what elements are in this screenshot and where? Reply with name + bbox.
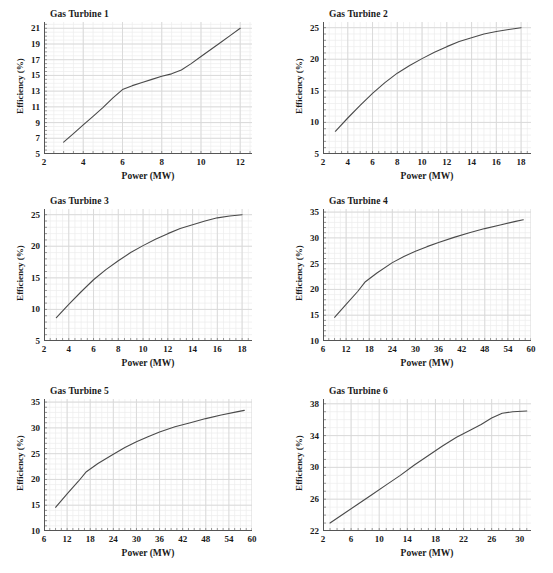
y-tick-label: 25	[20, 210, 40, 220]
y-tick-label: 17	[20, 55, 40, 65]
x-tick-label: 36	[434, 344, 443, 354]
x-tick-label: 16	[492, 157, 501, 167]
x-tick-label: 2	[42, 157, 47, 167]
chart-panel-2: Gas Turbine 2Efficiency (%)Power (MW)246…	[277, 0, 553, 191]
y-tick-label: 25	[20, 449, 40, 459]
y-tick-label: 10	[20, 304, 40, 314]
y-tick-label: 15	[299, 86, 319, 96]
x-tick-label: 4	[81, 157, 86, 167]
x-tick-label: 14	[467, 157, 476, 167]
x-axis-label-5: Power (MW)	[44, 548, 252, 558]
x-tick-label: 30	[515, 534, 524, 544]
chart-title-4: Gas Turbine 4	[329, 196, 388, 206]
x-tick-label: 18	[517, 157, 526, 167]
plot-area-6	[323, 399, 531, 531]
x-tick-label: 24	[388, 344, 397, 354]
plot-area-1	[44, 22, 252, 154]
x-tick-label: 12	[442, 157, 451, 167]
x-tick-label: 12	[63, 534, 72, 544]
x-tick-label: 48	[480, 344, 489, 354]
y-tick-label: 22	[299, 526, 319, 536]
x-tick-label: 8	[395, 157, 400, 167]
y-tick-label: 30	[299, 233, 319, 243]
x-tick-label: 42	[178, 534, 187, 544]
y-tick-label: 15	[20, 70, 40, 80]
x-tick-label: 6	[349, 534, 354, 544]
y-tick-label: 21	[20, 23, 40, 33]
chart-panel-4: Gas Turbine 4Efficiency (%)Power (MW)612…	[277, 191, 553, 379]
chart-title-5: Gas Turbine 5	[50, 386, 109, 396]
x-tick-label: 10	[139, 344, 148, 354]
x-tick-label: 10	[196, 157, 205, 167]
plot-area-3	[44, 209, 252, 341]
y-tick-label: 38	[299, 399, 319, 409]
y-tick-label: 26	[299, 494, 319, 504]
y-tick-label: 20	[20, 474, 40, 484]
y-tick-label: 5	[299, 149, 319, 159]
chart-title-6: Gas Turbine 6	[329, 386, 388, 396]
x-tick-label: 12	[236, 157, 245, 167]
chart-title-1: Gas Turbine 1	[50, 9, 109, 19]
x-tick-label: 42	[457, 344, 466, 354]
x-tick-label: 6	[91, 344, 96, 354]
chart-title-3: Gas Turbine 3	[50, 196, 109, 206]
y-tick-label: 25	[299, 259, 319, 269]
x-tick-label: 18	[238, 344, 247, 354]
x-tick-label: 18	[365, 344, 374, 354]
x-tick-label: 6	[370, 157, 375, 167]
x-tick-label: 14	[188, 344, 197, 354]
y-tick-label: 30	[299, 462, 319, 472]
chart-panel-3: Gas Turbine 3Efficiency (%)Power (MW)246…	[0, 191, 277, 379]
y-tick-label: 10	[299, 117, 319, 127]
plot-area-2	[323, 22, 531, 154]
x-axis-label-3: Power (MW)	[44, 358, 252, 368]
y-tick-label: 15	[20, 273, 40, 283]
x-tick-label: 30	[411, 344, 420, 354]
x-tick-label: 6	[321, 344, 326, 354]
x-tick-label: 10	[375, 534, 384, 544]
y-tick-label: 11	[20, 102, 40, 112]
x-tick-label: 22	[459, 534, 468, 544]
x-tick-label: 8	[159, 157, 164, 167]
x-tick-label: 6	[42, 534, 47, 544]
y-tick-label: 20	[20, 241, 40, 251]
x-tick-label: 2	[321, 534, 326, 544]
y-tick-label: 20	[299, 54, 319, 64]
y-tick-label: 5	[20, 336, 40, 346]
y-tick-label: 19	[20, 39, 40, 49]
x-tick-label: 60	[527, 344, 536, 354]
y-tick-label: 35	[20, 397, 40, 407]
plot-area-5	[44, 399, 252, 531]
x-tick-label: 18	[86, 534, 95, 544]
x-tick-label: 10	[418, 157, 427, 167]
x-tick-label: 30	[132, 534, 141, 544]
y-tick-label: 5	[20, 149, 40, 159]
x-tick-label: 2	[321, 157, 326, 167]
y-tick-label: 15	[20, 500, 40, 510]
x-tick-label: 14	[403, 534, 412, 544]
x-axis-label-2: Power (MW)	[323, 171, 531, 181]
y-tick-label: 13	[20, 86, 40, 96]
y-tick-label: 10	[299, 336, 319, 346]
x-tick-label: 54	[503, 344, 512, 354]
y-tick-label: 15	[299, 310, 319, 320]
x-tick-label: 12	[342, 344, 351, 354]
chart-panel-6: Gas Turbine 6Efficiency (%)Power (MW)261…	[277, 379, 553, 573]
x-tick-label: 48	[201, 534, 210, 544]
x-tick-label: 60	[248, 534, 257, 544]
x-tick-label: 16	[213, 344, 222, 354]
y-tick-label: 25	[299, 23, 319, 33]
x-tick-label: 8	[116, 344, 121, 354]
y-tick-label: 10	[20, 526, 40, 536]
x-tick-label: 4	[67, 344, 72, 354]
y-tick-label: 20	[299, 284, 319, 294]
y-tick-label: 9	[20, 118, 40, 128]
chart-panel-5: Gas Turbine 5Efficiency (%)Power (MW)612…	[0, 379, 277, 573]
x-tick-label: 18	[431, 534, 440, 544]
x-axis-label-4: Power (MW)	[323, 358, 531, 368]
y-tick-label: 34	[299, 431, 319, 441]
y-tick-label: 7	[20, 133, 40, 143]
chart-panel-1: Gas Turbine 1Efficiency (%)Power (MW)246…	[0, 0, 277, 191]
x-tick-label: 4	[346, 157, 351, 167]
y-tick-label: 35	[299, 207, 319, 217]
